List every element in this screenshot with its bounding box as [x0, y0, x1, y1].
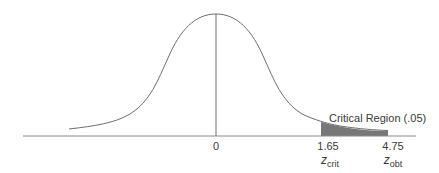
- tick-label-mean: 0: [213, 140, 219, 152]
- tick-label-obtained: 4.75: [382, 140, 403, 152]
- normal-curve-diagram: [0, 0, 439, 173]
- tick-label-critical: 1.65: [317, 140, 338, 152]
- critical-region-label: Critical Region (.05): [329, 112, 426, 124]
- z-crit-label: zcrit: [321, 153, 339, 169]
- z-subscript-obt: obt: [390, 159, 403, 169]
- z-subscript-crit: crit: [327, 159, 339, 169]
- z-obt-label: zobt: [384, 153, 403, 169]
